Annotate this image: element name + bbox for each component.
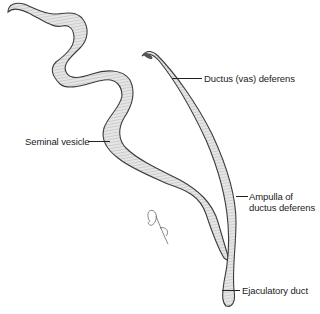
label-ampulla-line2: ductus deferens — [249, 202, 315, 213]
leader-ejaculatory-duct — [222, 290, 240, 291]
seminal-vesicle-drawing — [0, 0, 320, 314]
label-ampulla-line1: Ampulla of — [249, 191, 293, 202]
artist-signature — [148, 210, 168, 244]
leader-seminal-vesicle — [88, 141, 110, 142]
seminal-vesicle-shape — [8, 3, 230, 262]
label-ejaculatory-duct: Ejaculatory duct — [242, 285, 308, 296]
anatomy-figure: Ductus (vas) deferens Seminal vesicle Am… — [0, 0, 320, 314]
leader-ductus-deferens — [172, 78, 202, 79]
label-seminal-vesicle: Seminal vesicle — [25, 136, 90, 147]
label-ductus-deferens: Ductus (vas) deferens — [204, 73, 295, 84]
leader-ampulla — [236, 196, 248, 197]
